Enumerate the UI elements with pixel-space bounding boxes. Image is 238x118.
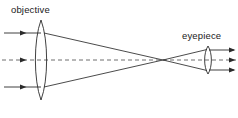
converging-ray-lower — [44, 60, 163, 87]
outgoing-ray-upper-arrowhead — [229, 48, 236, 53]
eyepiece-label: eyepiece — [182, 30, 221, 41]
incoming-ray-axis-arrowhead — [20, 58, 27, 63]
diverging-ray-upper — [163, 50, 207, 61]
incoming-ray-lower-arrowhead — [20, 85, 27, 90]
diverging-ray-lower — [163, 60, 207, 71]
incoming-ray-upper-arrowhead — [20, 31, 27, 36]
objective-label: objective — [11, 4, 50, 15]
telescope-ray-diagram: objective eyepiece — [0, 0, 238, 118]
outgoing-ray-axis-arrowhead — [229, 58, 236, 63]
outgoing-ray-lower-arrowhead — [229, 68, 236, 73]
converging-ray-upper — [44, 33, 163, 60]
diagram-canvas: objective eyepiece — [0, 0, 238, 118]
